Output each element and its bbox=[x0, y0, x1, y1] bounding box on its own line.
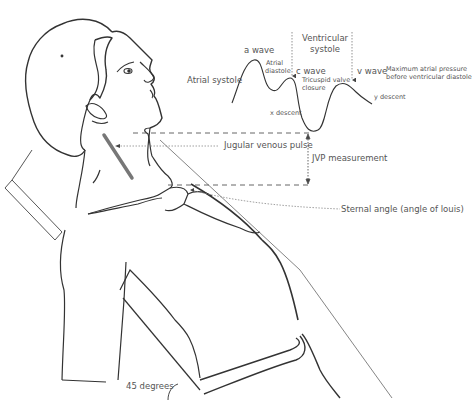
head-outline bbox=[26, 19, 162, 156]
label-jugular-venous-pulse: Jugular venous pulse bbox=[224, 141, 313, 150]
label-sternal-angle: Sternal angle (angle of louis) bbox=[341, 205, 464, 214]
label-atrial-systole: Atrial systole bbox=[187, 76, 242, 85]
ear bbox=[86, 104, 107, 119]
label-atrial-diastole-2: diastole bbox=[265, 68, 291, 75]
label-tricuspid-1: Tricuspid valve bbox=[302, 77, 350, 84]
label-c-wave: c wave bbox=[296, 67, 326, 76]
label-max-pressure-2: before ventricular diastole bbox=[386, 74, 472, 81]
torso-outline bbox=[60, 187, 260, 390]
label-jvp-measurement: JVP measurement bbox=[312, 154, 387, 163]
face-features bbox=[61, 55, 154, 123]
arrow-sternal bbox=[190, 188, 194, 192]
chair-back bbox=[5, 150, 62, 240]
abdomen-outline bbox=[200, 334, 340, 398]
jugular-vein bbox=[104, 135, 132, 178]
label-y-descent: y descent bbox=[374, 94, 406, 101]
label-tricuspid-2: closure bbox=[302, 85, 325, 92]
label-atrial-diastole-1: Atrial bbox=[266, 60, 283, 67]
label-x-descent: x descent bbox=[270, 110, 302, 117]
label-v-wave: v wave bbox=[357, 67, 387, 76]
label-a-wave: a wave bbox=[244, 46, 274, 55]
sternum-lines bbox=[160, 140, 392, 398]
nose bbox=[140, 62, 154, 82]
arrow-jvp bbox=[115, 144, 120, 148]
label-45-degrees: 45 degrees bbox=[126, 382, 174, 391]
label-max-pressure-1: Maximum atrial pressure bbox=[386, 66, 467, 73]
label-ventricular-1: Ventricular bbox=[302, 34, 348, 43]
label-ventricular-2: systole bbox=[310, 45, 340, 54]
mouth bbox=[150, 90, 153, 98]
